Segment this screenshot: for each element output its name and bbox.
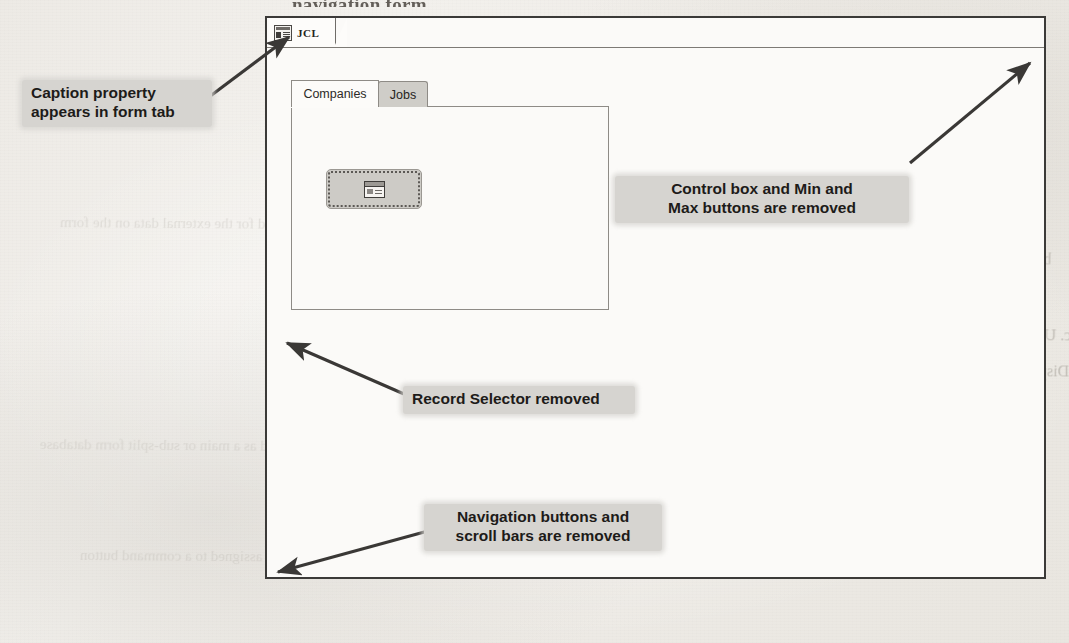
form-datasheet-icon: [274, 25, 292, 41]
page-heading-cutoff: navigation form: [292, 0, 427, 7]
command-button[interactable]: [326, 169, 422, 209]
tab-control: Companies Jobs: [291, 80, 609, 310]
tab-jobs[interactable]: Jobs: [378, 81, 428, 107]
callout-record-selector: Record Selector removed: [403, 386, 635, 414]
tab-companies[interactable]: Companies: [291, 80, 379, 107]
callout-navigation-buttons: Navigation buttons and scroll bars are r…: [424, 504, 662, 551]
tab-page-companies: [291, 106, 609, 310]
access-form-window: JCL Companies Jobs: [265, 16, 1046, 579]
document-tab-strip: JCL: [267, 18, 1044, 48]
document-tab-label: JCL: [297, 27, 319, 39]
document-tab-jcl[interactable]: JCL: [269, 18, 336, 47]
callout-caption-property: Caption property appears in form tab: [22, 80, 212, 127]
callout-control-box-min-max: Control box and Min and Max buttons are …: [615, 176, 909, 223]
form-button-icon: [364, 181, 385, 198]
form-design-surface: Companies Jobs: [267, 48, 1044, 577]
